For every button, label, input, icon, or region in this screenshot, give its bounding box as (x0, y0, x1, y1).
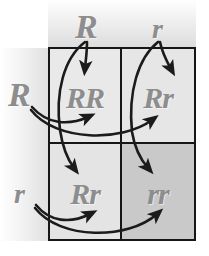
column-allele-r-label: r (152, 15, 163, 43)
column-allele-R-label: R (75, 10, 98, 44)
background-column-header-band (48, 0, 196, 48)
cell-RR: RR (50, 49, 122, 144)
row-allele-r-label: r (14, 180, 25, 208)
cell-Rr-top: Rr (122, 49, 194, 144)
cell-Rr-bottom: Rr (50, 144, 122, 239)
background-right-margin (196, 0, 209, 256)
row-allele-R-label: R (8, 78, 31, 112)
cell-Rr-top-label: Rr (143, 83, 173, 113)
punnett-square-diagram: RR Rr Rr rr R r R r (0, 0, 209, 256)
punnett-grid: RR Rr Rr rr (48, 47, 196, 241)
cell-RR-label: RR (66, 83, 104, 113)
cell-rr-label: rr (147, 179, 168, 209)
cell-rr: rr (122, 144, 194, 239)
background-bottom-margin (0, 241, 209, 256)
cell-Rr-bottom-label: Rr (70, 179, 100, 209)
background-corner (0, 0, 48, 48)
